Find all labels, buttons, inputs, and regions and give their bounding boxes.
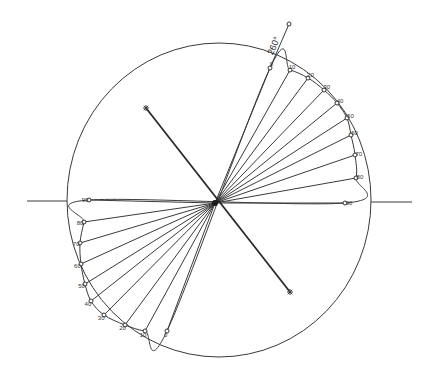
fan-line-left-60	[81, 203, 215, 264]
fan-line-right-0	[215, 68, 270, 203]
label-right-90: 90	[346, 200, 353, 206]
label-left-20: 20	[119, 325, 126, 331]
label-left-30: 30	[98, 315, 105, 321]
fan-line-left-10	[145, 203, 215, 331]
center-point	[212, 200, 218, 206]
label-left-50: 50	[78, 283, 85, 289]
label-left-40: 40	[85, 301, 92, 307]
label-right-30: 30	[323, 84, 330, 90]
fan-line-right-70	[215, 155, 355, 203]
label-left-90: 90	[82, 197, 89, 203]
label-right-10: 10	[289, 64, 296, 70]
fan-line-right-60	[215, 135, 351, 203]
diagram-canvas: 01020304050607080909080706050403020100 2…	[0, 0, 439, 370]
label-right-80: 80	[357, 174, 364, 180]
label-left-60: 60	[74, 263, 81, 269]
asterisk-end-icon	[287, 289, 293, 295]
label-right-50: 50	[347, 113, 354, 119]
fan-line-right-40	[215, 103, 337, 203]
label-left-10: 10	[140, 332, 147, 338]
label-right-20: 20	[307, 72, 314, 78]
fan-line-right-20	[215, 78, 308, 203]
asterisk-start-icon	[143, 105, 149, 111]
stereonet-diagram: 01020304050607080909080706050403020100 2…	[0, 0, 439, 370]
label-left-70: 70	[73, 241, 80, 247]
label-left-80: 80	[77, 220, 84, 226]
fan-line-left-50	[85, 203, 215, 284]
direction-end-marker	[287, 22, 291, 26]
label-right-60: 60	[351, 130, 358, 136]
fan-line-right-50	[215, 118, 347, 203]
label-right-70: 70	[355, 151, 362, 157]
label-right-40: 40	[337, 98, 344, 104]
